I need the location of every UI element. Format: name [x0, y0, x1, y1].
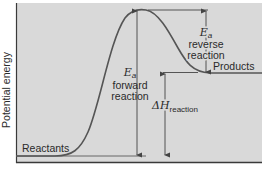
- reactants-label: Reactants: [22, 142, 69, 154]
- svg-text:reaction: reaction: [111, 90, 149, 102]
- energy-diagram: Potential energy Reactants Products Ea f…: [0, 0, 262, 171]
- y-axis-label: Potential energy: [0, 51, 12, 128]
- svg-text:reaction: reaction: [187, 49, 225, 61]
- products-label: Products: [213, 60, 254, 72]
